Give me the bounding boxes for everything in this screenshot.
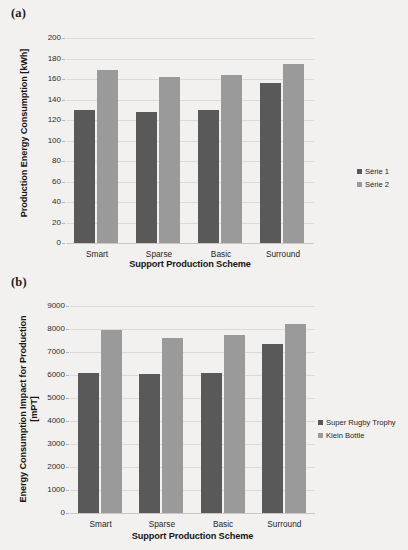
y-axis-tick-mark [62, 243, 65, 244]
bar-group: Sparse [131, 306, 192, 513]
gridline [66, 243, 314, 244]
panel-b: (b) 010002000300040005000600070008000900… [0, 272, 408, 550]
chart-a-legend: Série 1Série 2 [357, 168, 389, 188]
y-axis-tick-label: 120 [48, 116, 61, 124]
y-axis-tick-label: 1000 [47, 486, 65, 494]
bar-surround-series1 [262, 344, 283, 513]
y-axis-tick-mark [66, 352, 69, 353]
legend-swatch-icon [357, 169, 362, 174]
y-axis-tick-label: 140 [48, 96, 61, 104]
legend-item: Klein Bottle [318, 432, 396, 440]
chart-a-production-energy-consumption: 020406080100120140160180200 SmartSparseB… [0, 26, 408, 271]
y-axis-tick-mark [66, 444, 69, 445]
bar-smart-series1 [78, 373, 99, 513]
x-axis-tick-label: Basic [211, 249, 231, 259]
chart-b-y-axis-title: Energy Consumption Impact for Production… [18, 306, 40, 513]
bar-basic-series2 [224, 335, 245, 513]
x-axis-tick-label: Smart [90, 519, 112, 529]
figure-page: (a) 020406080100120140160180200 SmartSpa… [0, 0, 408, 550]
bar-group: Smart [70, 306, 131, 513]
y-axis-tick-mark [62, 100, 65, 101]
legend-item: Série 2 [357, 181, 389, 189]
y-axis-tick-label: 3000 [47, 440, 65, 448]
panel-b-label: (b) [11, 275, 27, 290]
chart-b-y-axis-title-line1: Energy Consumption Impact for Production [18, 306, 29, 513]
y-axis-tick-label: 0 [57, 239, 61, 247]
y-axis-tick-mark [62, 161, 65, 162]
legend-label: Super Rugby Trophy [326, 419, 396, 427]
chart-a-plot-area: 020406080100120140160180200 SmartSparseB… [66, 38, 314, 243]
bar-basic-series2 [221, 75, 242, 243]
y-axis-tick-label: 160 [48, 75, 61, 83]
bar-sparse-series2 [162, 338, 183, 513]
y-axis-tick-label: 8000 [47, 325, 65, 333]
y-axis-tick-label: 4000 [47, 417, 65, 425]
bar-surround-series1 [260, 83, 281, 243]
y-axis-tick-mark [62, 141, 65, 142]
bar-group: Surround [254, 306, 315, 513]
legend-label: Klein Bottle [326, 432, 364, 440]
bar-basic-series1 [201, 373, 222, 513]
y-axis-tick-label: 6000 [47, 371, 65, 379]
chart-b-legend: Super Rugby TrophyKlein Bottle [318, 419, 396, 439]
bar-smart-series1 [74, 110, 95, 243]
panel-a: (a) 020406080100120140160180200 SmartSpa… [0, 0, 408, 275]
bar-group: Smart [66, 38, 128, 243]
legend-label: Série 1 [365, 168, 389, 176]
y-axis-tick-mark [62, 38, 65, 39]
y-axis-tick-mark [62, 182, 65, 183]
y-axis-tick-mark [62, 223, 65, 224]
y-axis-tick-label: 80 [52, 157, 61, 165]
y-axis-tick-mark [66, 421, 69, 422]
bar-surround-series2 [285, 324, 306, 513]
bar-group: Basic [193, 306, 254, 513]
bar-group: Sparse [128, 38, 190, 243]
chart-a-y-axis-title: Production Energy Consumption [kWh] [19, 31, 29, 236]
y-axis-tick-label: 200 [48, 34, 61, 42]
legend-swatch-icon [318, 433, 323, 438]
bar-group: Basic [190, 38, 252, 243]
legend-swatch-icon [357, 182, 362, 187]
y-axis-tick-label: 2000 [47, 463, 65, 471]
chart-b-energy-consumption-impact: 0100020003000400050006000700080009000 Sm… [0, 294, 408, 544]
y-axis-tick-label: 60 [52, 178, 61, 186]
x-axis-tick-label: Basic [213, 519, 233, 529]
bar-sparse-series1 [136, 112, 157, 243]
y-axis-tick-mark [62, 120, 65, 121]
x-axis-tick-label: Sparse [149, 519, 175, 529]
y-axis-tick-label: 5000 [47, 394, 65, 402]
y-axis-tick-label: 0 [61, 509, 65, 517]
x-axis-tick-label: Surround [266, 249, 300, 259]
y-axis-tick-mark [66, 375, 69, 376]
y-axis-tick-mark [66, 467, 69, 468]
y-axis-tick-label: 20 [52, 219, 61, 227]
chart-b-bars: SmartSparseBasicSurround [70, 306, 315, 513]
bar-group: Surround [252, 38, 314, 243]
y-axis-tick-mark [66, 398, 69, 399]
y-axis-tick-mark [62, 79, 65, 80]
bar-basic-series1 [198, 110, 219, 243]
y-axis-tick-label: 100 [48, 137, 61, 145]
y-axis-tick-mark [66, 306, 69, 307]
y-axis-tick-mark [66, 513, 69, 514]
legend-swatch-icon [318, 420, 323, 425]
legend-item: Série 1 [357, 168, 389, 176]
y-axis-tick-label: 9000 [47, 302, 65, 310]
bar-smart-series2 [101, 330, 122, 513]
x-axis-tick-label: Surround [267, 519, 301, 529]
bar-smart-series2 [97, 70, 118, 243]
y-axis-tick-mark [62, 202, 65, 203]
panel-a-label: (a) [11, 6, 26, 21]
y-axis-tick-mark [66, 490, 69, 491]
chart-a-bars: SmartSparseBasicSurround [66, 38, 314, 243]
y-axis-tick-label: 7000 [47, 348, 65, 356]
chart-b-y-axis-title-line2: [mPT] [29, 306, 40, 513]
gridline [70, 513, 315, 514]
x-axis-tick-label: Smart [86, 249, 108, 259]
legend-item: Super Rugby Trophy [318, 419, 396, 427]
bar-surround-series2 [283, 64, 304, 243]
y-axis-tick-mark [66, 329, 69, 330]
bar-sparse-series1 [139, 374, 160, 513]
bar-sparse-series2 [159, 77, 180, 243]
legend-label: Série 2 [365, 181, 389, 189]
